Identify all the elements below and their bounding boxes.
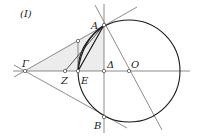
label-o: O [131,59,139,70]
point-delta [102,69,105,72]
geometry-figure: (I) A B Γ Z E Δ O [0,0,202,140]
point-a [102,23,105,26]
label-e: E [80,75,89,86]
point-gamma [23,69,26,72]
point-z [63,69,66,72]
diagram-canvas: (I) A B Γ Z E Δ O [0,0,202,140]
point-on-tangent [76,39,79,42]
point-e [76,69,79,72]
label-b: B [93,120,101,131]
label-a: A [90,20,98,31]
label-delta: Δ [106,59,114,70]
label-z: Z [60,75,69,86]
point-b [102,115,105,118]
figure-label: (I) [20,8,32,19]
label-gamma: Γ [21,58,30,69]
